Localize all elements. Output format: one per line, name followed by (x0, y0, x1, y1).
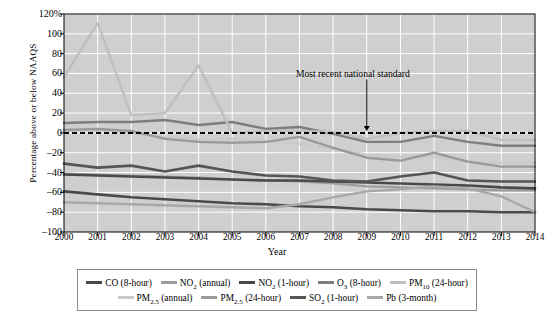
legend-color-swatch (201, 296, 217, 299)
legend-color-swatch (390, 281, 406, 284)
legend-item[interactable]: SO2 (1-hour) (290, 293, 358, 303)
legend-color-swatch (239, 281, 255, 284)
legend-item[interactable]: PM2.5 (24-hour) (201, 293, 281, 303)
legend-item-label: CO (8-hour) (105, 278, 152, 288)
legend-item-label: PM10 (24-hour) (409, 278, 468, 288)
legend-item[interactable]: CO (8-hour) (86, 278, 152, 288)
legend-item-label: NO2 (annual) (180, 278, 231, 288)
legend-item-label: NO2 (1-hour) (258, 278, 309, 288)
legend-color-swatch (367, 296, 383, 299)
legend-item-label: Pb (3-month) (386, 293, 436, 303)
legend-item-label: PM2.5 (24-hour) (220, 293, 281, 303)
legend-color-swatch (118, 296, 134, 299)
legend-item-label: O3 (8-hour) (337, 278, 381, 288)
x-axis-title: Year (0, 246, 554, 257)
legend-color-swatch (86, 281, 102, 284)
x-tick-label: 2014 (515, 232, 554, 242)
legend-item-label: SO2 (1-hour) (309, 293, 358, 303)
legend-row: PM2.5 (annual)PM2.5 (24-hour)SO2 (1-hour… (85, 290, 469, 305)
legend-color-swatch (290, 296, 306, 299)
legend-item[interactable]: NO2 (1-hour) (239, 278, 309, 288)
chart-legend: CO (8-hour)NO2 (annual)NO2 (1-hour)O3 (8… (77, 269, 477, 311)
legend-color-swatch (161, 281, 177, 284)
legend-color-swatch (318, 281, 334, 284)
chart-figure: Percentage above or below NAAQS 120%1008… (0, 0, 554, 327)
legend-item[interactable]: PM10 (24-hour) (390, 278, 468, 288)
legend-item[interactable]: PM2.5 (annual) (118, 293, 193, 303)
legend-item-label: PM2.5 (annual) (137, 293, 193, 303)
annotation-most-recent-national-standard: Most recent national standard (296, 68, 410, 79)
legend-row: CO (8-hour)NO2 (annual)NO2 (1-hour)O3 (8… (85, 275, 469, 290)
legend-item[interactable]: Pb (3-month) (367, 293, 436, 303)
legend-item[interactable]: NO2 (annual) (161, 278, 231, 288)
legend-item[interactable]: O3 (8-hour) (318, 278, 381, 288)
